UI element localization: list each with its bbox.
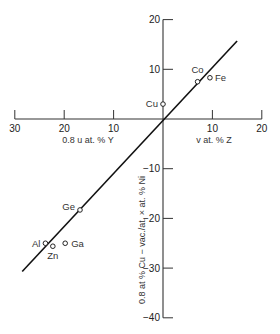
data-points: CuCoFeGeAlZnGa bbox=[32, 64, 226, 262]
y-tick-label: −10 bbox=[143, 163, 160, 174]
scatter-chart: 30201010202010−10−20−30−40 CuCoFeGeAlZnG… bbox=[0, 0, 280, 334]
data-point-co bbox=[195, 79, 200, 84]
point-label-cu: Cu bbox=[146, 98, 158, 109]
y-tick-label: −40 bbox=[143, 312, 160, 323]
x-tick-label: 20 bbox=[256, 123, 268, 134]
fit-line bbox=[22, 41, 237, 272]
data-point-al bbox=[43, 241, 48, 246]
x-axis-label-left: 0.8 u at. % Y bbox=[62, 135, 113, 145]
data-point-fe bbox=[208, 75, 213, 80]
regression-line bbox=[22, 41, 237, 272]
x-tick-label: 20 bbox=[59, 123, 71, 134]
x-tick-label: 10 bbox=[108, 123, 120, 134]
y-tick-label: 20 bbox=[149, 14, 161, 25]
data-point-ge bbox=[78, 208, 83, 213]
x-tick-label: 30 bbox=[9, 123, 21, 134]
point-label-ga: Ga bbox=[71, 238, 84, 249]
point-label-co: Co bbox=[192, 64, 204, 75]
point-label-al: Al bbox=[32, 238, 40, 249]
data-point-zn bbox=[51, 244, 56, 249]
x-tick-label: 10 bbox=[207, 123, 219, 134]
y-axis-label: 0.8 at % Cu − vac./at. × at. % Ni bbox=[137, 176, 147, 304]
point-label-fe: Fe bbox=[215, 72, 226, 83]
y-tick-label: 10 bbox=[149, 64, 161, 75]
point-label-ge: Ge bbox=[62, 201, 75, 212]
data-point-cu bbox=[161, 102, 166, 107]
x-axis-label-right: v at. % Z bbox=[196, 135, 232, 145]
data-point-ga bbox=[63, 241, 68, 246]
point-label-zn: Zn bbox=[47, 250, 58, 261]
